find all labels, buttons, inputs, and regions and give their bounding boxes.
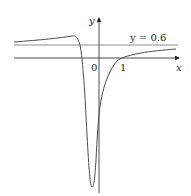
origin-label: 0 xyxy=(91,62,97,73)
chart: y x 0 1 y = 0.6 xyxy=(0,0,191,196)
asymptote-label: y = 0.6 xyxy=(129,32,166,43)
x-tick-1-label: 1 xyxy=(120,62,126,73)
y-axis-label: y xyxy=(88,15,95,26)
function-curve xyxy=(14,36,176,187)
x-axis-label: x xyxy=(176,62,182,73)
